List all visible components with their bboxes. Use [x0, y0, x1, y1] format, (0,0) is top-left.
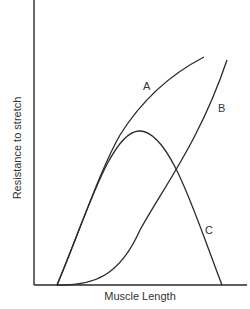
curve-label-a: A [143, 81, 150, 92]
y-axis-label: Resistance to stretch [11, 97, 23, 200]
curve-b [57, 60, 227, 285]
curve-label-b: B [218, 103, 225, 114]
x-axis-label: Muscle Length [0, 290, 250, 302]
curve-c [57, 131, 222, 285]
curve-label-c: C [205, 225, 213, 236]
curve-a [57, 57, 204, 285]
chart-plot [0, 0, 250, 309]
